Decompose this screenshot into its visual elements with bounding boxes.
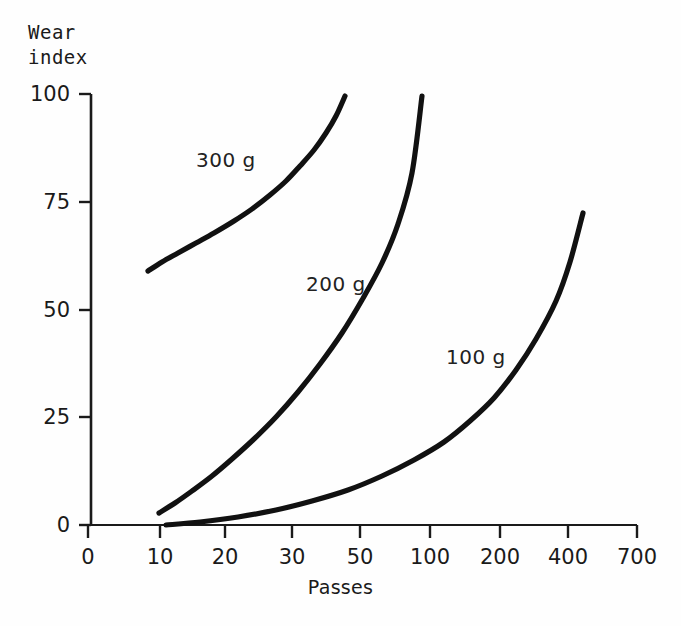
- x-axis-title: Passes: [0, 575, 681, 600]
- plot-area: [0, 0, 681, 626]
- wear-index-chart: Wearindex Passes 0255075100 010203050100…: [0, 0, 681, 626]
- y-tick-label: 100: [0, 82, 70, 106]
- x-tick-label: 100: [410, 545, 450, 569]
- curve-100-g: [166, 213, 583, 525]
- x-tick-label: 700: [617, 545, 657, 569]
- y-tick-label: 50: [0, 298, 70, 322]
- x-tick-label: 200: [480, 545, 520, 569]
- y-tick-label: 75: [0, 190, 70, 214]
- series-label-300-g: 300 g: [196, 148, 256, 172]
- y-axis-title: Wearindex: [28, 20, 88, 70]
- x-tick-label: 20: [212, 545, 239, 569]
- tick-marks: [79, 94, 637, 538]
- x-tick-label: 50: [347, 545, 374, 569]
- y-axis-title-line1: Wear: [28, 21, 76, 43]
- curve-300-g: [148, 96, 345, 271]
- x-tick-label: 400: [548, 545, 588, 569]
- x-tick-label: 30: [279, 545, 306, 569]
- y-tick-label: 25: [0, 405, 70, 429]
- y-axis-title-line2: index: [28, 46, 88, 68]
- y-tick-label: 0: [0, 513, 70, 537]
- x-tick-label: 10: [147, 545, 174, 569]
- series-label-100-g: 100 g: [446, 345, 506, 369]
- series-label-200-g: 200 g: [306, 272, 366, 296]
- x-tick-label: 0: [81, 545, 94, 569]
